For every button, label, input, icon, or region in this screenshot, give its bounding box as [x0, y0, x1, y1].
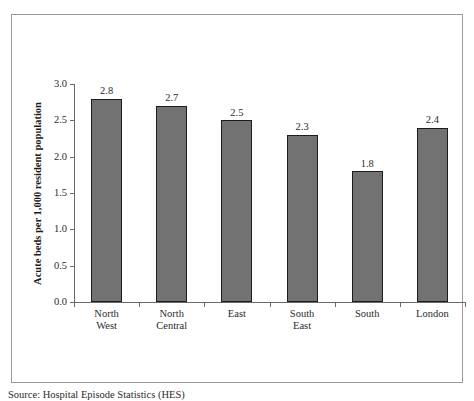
category-label-london: London: [400, 308, 465, 320]
category-label-line: South: [270, 308, 335, 320]
bar-south-east[interactable]: 2.3: [287, 135, 318, 302]
x-tick-mark: [204, 302, 205, 307]
bar-north-west[interactable]: 2.8: [91, 99, 122, 302]
x-tick-mark: [270, 302, 271, 307]
y-tick-label: 0.5: [54, 260, 67, 271]
y-tick-label: 2.0: [54, 151, 67, 162]
x-tick-mark: [400, 302, 401, 307]
category-label-south: South: [335, 308, 400, 320]
x-tick-mark: [335, 302, 336, 307]
bar-value-label: 2.7: [165, 93, 178, 104]
y-tick-label: 0.0: [54, 297, 67, 308]
y-axis-title-label: Acute beds per 1,000 resident population: [32, 102, 43, 285]
category-label-line: North: [139, 308, 204, 320]
bar-east[interactable]: 2.5: [221, 120, 252, 302]
bar-value-label: 1.8: [361, 159, 374, 170]
bar-south[interactable]: 1.8: [352, 171, 383, 302]
y-tick-label: 3.0: [54, 79, 67, 90]
category-label-line: North: [74, 308, 139, 320]
category-label-line: East: [270, 320, 335, 332]
bar-value-label: 2.5: [230, 108, 243, 119]
y-tick-mark: [70, 157, 75, 158]
bar-value-label: 2.3: [296, 122, 309, 133]
figure-caption: Source: Hospital Episode Statistics (HES…: [8, 390, 185, 401]
y-tick-mark: [70, 120, 75, 121]
category-label-line: South: [335, 308, 400, 320]
bar-north-central[interactable]: 2.7: [156, 106, 187, 302]
category-label-line: London: [400, 308, 465, 320]
x-tick-mark: [465, 302, 466, 307]
category-label-line: West: [74, 320, 139, 332]
category-label-north-central: NorthCentral: [139, 308, 204, 332]
category-label-line: Central: [139, 320, 204, 332]
bar-london[interactable]: 2.4: [417, 128, 448, 302]
bar-chart-plot-area: 0.00.51.01.52.02.53.0 2.82.72.52.31.82.4…: [74, 84, 465, 302]
y-tick-mark: [70, 193, 75, 194]
category-label-line: East: [204, 308, 269, 320]
y-tick-label: 1.5: [54, 188, 67, 199]
y-axis-title: Acute beds per 1,000 resident population: [30, 84, 44, 302]
x-tick-mark: [139, 302, 140, 307]
bar-value-label: 2.4: [426, 115, 439, 126]
bar-value-label: 2.8: [100, 86, 113, 97]
y-tick-mark: [70, 229, 75, 230]
y-tick-mark: [70, 266, 75, 267]
figure-frame: Acute beds per 1,000 resident population…: [11, 14, 463, 383]
y-tick-mark: [70, 84, 75, 85]
category-label-south-east: SouthEast: [270, 308, 335, 332]
category-label-east: East: [204, 308, 269, 320]
y-tick-label: 1.0: [54, 224, 67, 235]
y-tick-label: 2.5: [54, 115, 67, 126]
category-label-north-west: NorthWest: [74, 308, 139, 332]
x-tick-mark: [74, 302, 75, 307]
